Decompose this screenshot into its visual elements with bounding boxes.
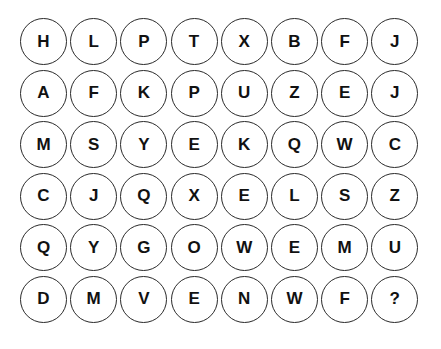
letter-circle: K	[221, 121, 268, 168]
grid-row-3: M S Y E K Q W C	[20, 121, 422, 173]
letter-circle: F	[321, 276, 368, 323]
letter-circle: C	[371, 121, 418, 168]
letter-circle: P	[171, 70, 218, 117]
letter-circle: L	[271, 173, 318, 220]
letter-circle: M	[70, 276, 117, 323]
letter-circle: E	[321, 70, 368, 117]
letter-circle: O	[171, 224, 218, 271]
letter-circle: J	[371, 18, 418, 65]
letter-circle: M	[20, 121, 67, 168]
letter-circle: P	[120, 18, 167, 65]
grid-row-5: Q Y G O W E M U	[20, 224, 422, 276]
letter-circle: B	[271, 18, 318, 65]
letter-circle: E	[171, 121, 218, 168]
letter-circle: D	[20, 276, 67, 323]
grid-row-2: A F K P U Z E J	[20, 70, 422, 122]
letter-circle: Y	[120, 121, 167, 168]
letter-circle: T	[171, 18, 218, 65]
letter-circle: Z	[271, 70, 318, 117]
letter-circle: Q	[271, 121, 318, 168]
letter-circle: E	[221, 173, 268, 220]
letter-circle: J	[70, 173, 117, 220]
letter-circle: E	[171, 276, 218, 323]
letter-circle: G	[120, 224, 167, 271]
answer-circle[interactable]: ?	[371, 276, 418, 323]
letter-circle: Y	[70, 224, 117, 271]
letter-circle: X	[221, 18, 268, 65]
letter-circle: V	[120, 276, 167, 323]
letter-circle: U	[221, 70, 268, 117]
letter-circle: C	[20, 173, 67, 220]
letter-circle: Q	[120, 173, 167, 220]
letter-circle: W	[321, 121, 368, 168]
letter-circle: A	[20, 70, 67, 117]
grid-row-4: C J Q X E L S Z	[20, 173, 422, 225]
letter-circle: K	[120, 70, 167, 117]
letter-circle: S	[321, 173, 368, 220]
letter-circle: H	[20, 18, 67, 65]
letter-circle: Q	[20, 224, 67, 271]
letter-circle: W	[221, 224, 268, 271]
letter-circle: E	[271, 224, 318, 271]
grid-row-6: D M V E N W F ?	[20, 276, 422, 328]
letter-circle: J	[371, 70, 418, 117]
letter-circle: X	[171, 173, 218, 220]
letter-circle: F	[321, 18, 368, 65]
letter-circle: F	[70, 70, 117, 117]
letter-circle: M	[321, 224, 368, 271]
letter-circle: W	[271, 276, 318, 323]
letter-circle: N	[221, 276, 268, 323]
letter-circle: Z	[371, 173, 418, 220]
letter-circle: L	[70, 18, 117, 65]
letter-circle: U	[371, 224, 418, 271]
letter-circle: S	[70, 121, 117, 168]
letter-grid: H L P T X B F J A F K P U Z E J M S Y E …	[20, 18, 422, 328]
grid-row-1: H L P T X B F J	[20, 18, 422, 70]
